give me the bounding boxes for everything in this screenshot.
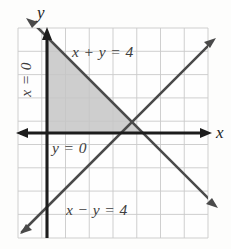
equation-label-y-equals-zero: y = 0 — [52, 140, 87, 156]
y-axis-letter: y — [37, 4, 45, 21]
equation-label-x-minus-y: x − y = 4 — [66, 202, 128, 218]
equation-label-x-equals-zero: x = 0 — [18, 27, 34, 62]
equation-label-x-plus-y: x + y = 4 — [72, 44, 134, 60]
equation-label-x-equals-zero-text: x = 0 — [18, 62, 34, 97]
graph-figure: x + y = 4 x − y = 4 y = 0 x = 0 y x — [0, 0, 231, 249]
x-axis-letter: x — [216, 124, 224, 141]
